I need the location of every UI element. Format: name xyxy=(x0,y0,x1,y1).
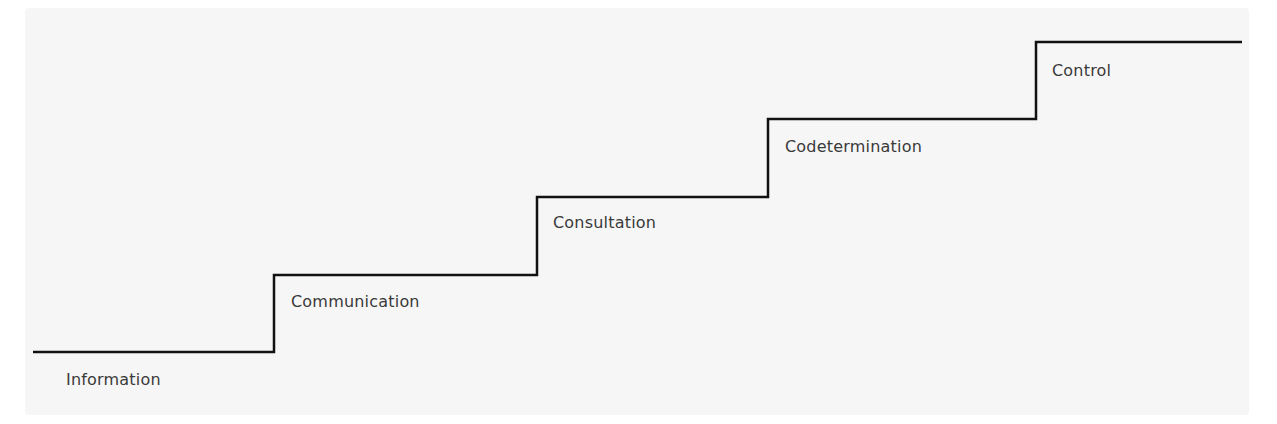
step-label-control: Control xyxy=(1052,61,1111,80)
step-label-communication: Communication xyxy=(291,292,420,311)
step-label-information: Information xyxy=(66,370,161,389)
step-label-codetermination: Codetermination xyxy=(785,137,922,156)
step-label-consultation: Consultation xyxy=(553,213,656,232)
